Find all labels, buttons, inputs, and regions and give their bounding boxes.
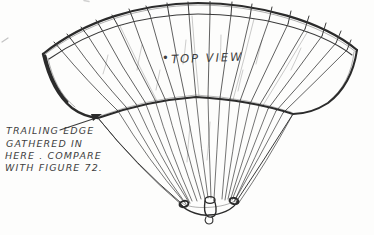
paper-smudge	[2, 38, 8, 42]
trailing-edge-annotation: TRAILING EDGE GATHERED IN HERE . COMPARE…	[5, 125, 103, 173]
canopy-right-edge	[293, 50, 357, 114]
payload	[179, 197, 239, 224]
right-edge-echo	[327, 52, 354, 103]
suspension-line	[230, 106, 259, 201]
suspension-line	[222, 99, 230, 199]
gore-line	[268, 36, 322, 109]
suspension-line	[235, 113, 283, 200]
leading-edge-outer-echo	[43, 5, 356, 56]
suspension-line	[228, 104, 250, 199]
payload-knob	[205, 217, 213, 224]
parachute-top-view-sketch: • TOP VIEW TRAILING EDGE GATHERED IN HER…	[0, 0, 374, 235]
rib-tick-marks	[54, 2, 351, 51]
suspension-line	[126, 107, 186, 204]
suspension-lines	[98, 97, 293, 206]
top-view-label: TOP VIEW	[171, 50, 244, 67]
suspension-line	[196, 97, 208, 198]
gore-line	[133, 19, 165, 99]
gore-line	[74, 43, 126, 107]
annotation-line: HERE . COMPARE	[5, 150, 102, 161]
fabric-stroke	[256, 40, 262, 64]
annotation-line: GATHERED IN	[6, 138, 83, 149]
annotation-line: WITH FIGURE 72.	[5, 162, 103, 173]
gore-line	[88, 36, 136, 104]
suspension-line	[98, 118, 183, 206]
gore-line	[102, 30, 145, 102]
fabric-stroke	[103, 55, 108, 74]
suspension-line	[234, 111, 276, 202]
gore-line	[283, 50, 347, 113]
annotation-line: TRAILING EDGE	[6, 125, 94, 136]
suspension-line	[214, 98, 220, 199]
gore-line	[276, 43, 336, 111]
gore-line	[259, 29, 305, 106]
suspension-line	[98, 118, 181, 203]
paper-artifacts	[2, 1, 89, 43]
gore-line-echo	[120, 26, 157, 101]
top-view-marker: •	[162, 51, 171, 65]
paper-smudge	[84, 1, 89, 2]
sketch-page: • TOP VIEW TRAILING EDGE GATHERED IN HER…	[0, 0, 374, 235]
gore-line	[250, 24, 288, 104]
right-edge	[293, 50, 357, 114]
rib-tick	[250, 4, 252, 17]
gore-line	[240, 20, 269, 101]
leading-edge-outer	[43, 3, 357, 54]
